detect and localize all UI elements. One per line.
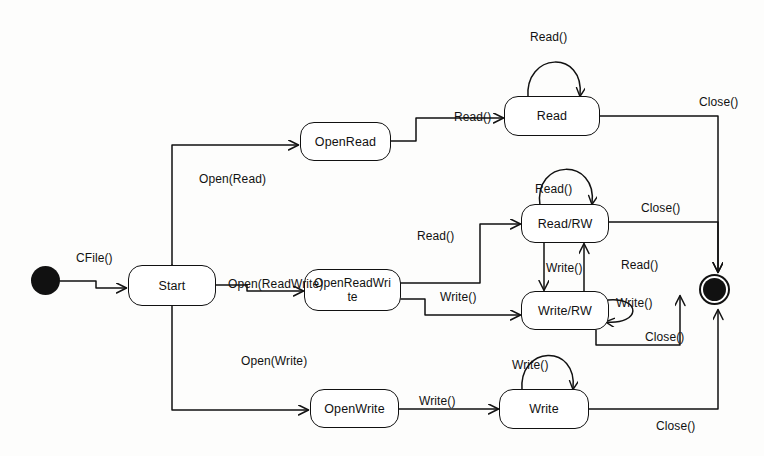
label-write-call-openwrite: Write() xyxy=(419,394,455,408)
state-openreadwrite-label-line2: te xyxy=(347,290,357,304)
state-start-label: Start xyxy=(159,279,186,293)
label-read-call-openread: Read() xyxy=(454,110,491,124)
edge-start-to-openread xyxy=(172,145,298,265)
label-close-read: Close() xyxy=(699,95,738,109)
label-write-call-openreadwrite: Write() xyxy=(440,290,476,304)
label-write-readrw-to-writerw: Write() xyxy=(546,261,582,275)
edge-write-to-final xyxy=(588,310,718,409)
label-read-self-loop: Read() xyxy=(530,30,567,44)
label-cfile: CFile() xyxy=(76,251,113,265)
label-close-writerw: Close() xyxy=(645,330,684,344)
state-openreadwrite-label: OpenReadWri xyxy=(314,276,391,290)
state-readrw[interactable]: Read/RW xyxy=(521,204,609,243)
state-openwrite-label: OpenWrite xyxy=(324,402,384,416)
label-readrw-self-loop: Read() xyxy=(535,182,572,196)
label-close-write: Close() xyxy=(656,419,695,433)
label-read-writerw-to-readrw: Read() xyxy=(621,258,658,272)
state-writerw-label: Write/RW xyxy=(538,304,592,318)
final-state-inner xyxy=(703,278,726,301)
state-diagram-canvas: Start OpenRead OpenReadWri te OpenWrite … xyxy=(0,0,764,456)
state-openread-label: OpenRead xyxy=(315,135,376,149)
edge-initial-to-start xyxy=(60,281,126,288)
label-open-write: Open(Write) xyxy=(241,354,307,368)
edge-read-to-final xyxy=(600,116,718,272)
state-read-label: Read xyxy=(537,109,567,123)
state-write[interactable]: Write xyxy=(499,389,589,429)
state-openwrite[interactable]: OpenWrite xyxy=(310,389,399,428)
label-writerw-self-loop: Write() xyxy=(616,296,652,310)
edge-read-self-loop xyxy=(528,62,580,98)
state-readrw-label: Read/RW xyxy=(538,217,593,231)
diagram-edges-layer xyxy=(0,0,764,456)
label-read-call-openreadwrite: Read() xyxy=(417,229,454,243)
state-read[interactable]: Read xyxy=(504,96,600,136)
initial-state xyxy=(31,266,60,295)
label-write-self-loop: Write() xyxy=(512,358,548,372)
state-writerw[interactable]: Write/RW xyxy=(521,291,609,330)
final-state xyxy=(699,274,730,305)
state-openread[interactable]: OpenRead xyxy=(300,122,391,161)
label-open-read: Open(Read) xyxy=(199,172,266,186)
label-open-readwrite: Open(ReadWrite) xyxy=(228,277,323,291)
state-start[interactable]: Start xyxy=(128,265,216,306)
label-close-readrw: Close() xyxy=(641,201,680,215)
state-write-label: Write xyxy=(529,402,558,416)
